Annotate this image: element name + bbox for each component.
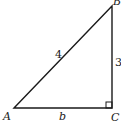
side-label-hypotenuse: 4 [55, 48, 62, 61]
triangle-diagram: A B C 4 3 b [0, 0, 121, 131]
vertex-label-a: A [2, 110, 11, 123]
side-label-ac: b [59, 110, 66, 123]
triangle-shape [14, 6, 112, 108]
right-angle-marker [106, 102, 112, 108]
vertex-label-c: C [111, 111, 120, 124]
vertex-label-b: B [112, 0, 121, 8]
side-label-bc: 3 [115, 56, 121, 69]
